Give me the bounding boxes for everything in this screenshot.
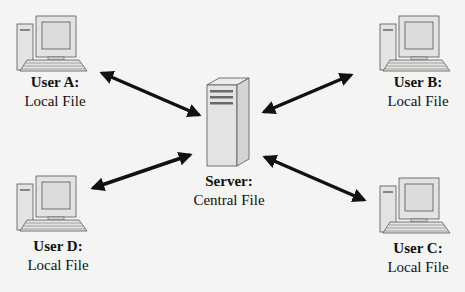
label-user-a: User A: Local File <box>0 75 110 109</box>
label-server: Server: Central File <box>174 174 284 208</box>
computer-icon-c <box>380 178 450 233</box>
user-b-subtitle: Local File <box>363 94 465 109</box>
computer-icon-b <box>380 16 450 71</box>
computer-icon-a <box>17 16 87 71</box>
server-title: Server: <box>174 174 284 189</box>
label-user-b: User B: Local File <box>363 75 465 109</box>
user-d-subtitle: Local File <box>3 258 113 273</box>
user-b-title: User B: <box>363 75 465 90</box>
server-icon <box>207 78 249 166</box>
user-c-subtitle: Local File <box>363 260 465 275</box>
label-user-d: User D: Local File <box>3 239 113 273</box>
arrow-a-server <box>102 73 199 115</box>
arrow-b-server <box>264 75 351 112</box>
user-c-title: User C: <box>363 241 465 256</box>
user-d-title: User D: <box>3 239 113 254</box>
label-user-c: User C: Local File <box>363 241 465 275</box>
computer-icon-d <box>17 176 87 231</box>
user-a-subtitle: Local File <box>0 94 110 109</box>
user-a-title: User A: <box>0 75 110 90</box>
server-subtitle: Central File <box>174 193 284 208</box>
